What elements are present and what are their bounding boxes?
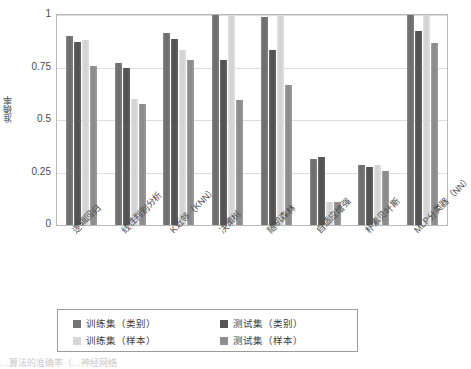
bar: [220, 60, 227, 225]
legend-item-train-sample: 训练集（样本）: [73, 336, 220, 346]
bar: [123, 68, 130, 226]
y-axis-tick-label: 0.75: [9, 62, 51, 72]
bar: [131, 99, 138, 225]
bar: [90, 66, 97, 225]
bar: [236, 100, 243, 225]
legend-label-train-sample: 训练集（样本）: [86, 336, 156, 346]
bar: [318, 157, 325, 225]
legend-item-test-class: 测试集（类别）: [220, 319, 357, 329]
bar: [82, 40, 89, 225]
legend-label-test-class: 测试集（类别）: [233, 319, 303, 329]
legend-row: 训练集（样本） 测试集（样本）: [58, 332, 357, 349]
y-axis-tick-label: 1: [9, 9, 51, 19]
y-axis-tick-label: 0: [9, 219, 51, 229]
bar: [66, 36, 73, 225]
x-axis-tick-labels: 逻辑回归线性判别分析K近邻（KNN）决策树随机森林自适应增强朴素贝叶斯MLP分类…: [56, 228, 448, 314]
bar-group: [398, 15, 447, 225]
bar: [269, 50, 276, 225]
bar: [415, 31, 422, 225]
legend-item-test-sample: 测试集（样本）: [220, 336, 357, 346]
legend-swatch-train-class: [73, 320, 81, 328]
legend-swatch-train-sample: [73, 337, 81, 345]
bar-group: [301, 15, 350, 225]
bar: [423, 15, 430, 225]
legend-swatch-test-sample: [220, 337, 228, 345]
gridline: [57, 225, 447, 226]
bar: [171, 39, 178, 225]
bar: [115, 63, 122, 225]
figure-caption: …算法的准确率（…神经网络: [0, 358, 455, 369]
plot-area: [56, 14, 448, 226]
bar: [277, 15, 284, 225]
bar: [261, 17, 268, 225]
bar: [407, 15, 414, 225]
bar: [187, 60, 194, 225]
bar-group: [106, 15, 155, 225]
bar: [179, 50, 186, 225]
bar: [358, 165, 365, 225]
bar-group: [350, 15, 399, 225]
chart-legend: 训练集（类别） 测试集（类别） 训练集（样本） 测试集（样本）: [57, 309, 358, 352]
bar: [431, 43, 438, 225]
y-axis-tick-label: 0.25: [9, 167, 51, 177]
y-axis-tick-label: 0.5: [9, 114, 51, 124]
bar-group: [252, 15, 301, 225]
legend-swatch-test-class: [220, 320, 228, 328]
bar-series-container: [57, 15, 447, 225]
bar: [228, 15, 235, 225]
bar: [366, 167, 373, 225]
legend-label-test-sample: 测试集（样本）: [233, 336, 303, 346]
legend-item-train-class: 训练集（类别）: [73, 319, 220, 329]
legend-label-train-class: 训练集（类别）: [86, 319, 156, 329]
legend-row: 训练集（类别） 测试集（类别）: [58, 315, 357, 332]
bar: [74, 42, 81, 225]
bar-group: [57, 15, 106, 225]
bar: [310, 159, 317, 225]
